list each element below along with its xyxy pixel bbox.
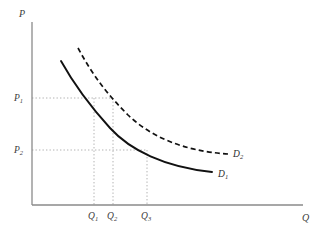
axes (32, 22, 303, 205)
demand-curve-d1 (61, 61, 212, 172)
curve-labels: D2 D1 (217, 149, 244, 180)
quantity-tick-q3: Q3 (141, 211, 152, 222)
quantity-tick-labels: Q1 Q2 Q3 (88, 211, 152, 222)
curve-label-d2: D2 (232, 149, 244, 160)
curve-label-d1: D1 (217, 169, 228, 180)
y-axis-label: P (18, 8, 25, 19)
demand-curve-d2 (78, 48, 228, 154)
quantity-tick-q2: Q2 (107, 211, 118, 222)
demand-curve-figure: P Q P1 P2 Q1 Q2 Q3 D2 D1 (0, 0, 323, 237)
price-tick-p1: P1 (13, 93, 23, 104)
quantity-tick-q1: Q1 (88, 211, 98, 222)
price-guidelines (32, 98, 147, 150)
figure-canvas: P Q P1 P2 Q1 Q2 Q3 D2 D1 (0, 0, 323, 237)
price-tick-labels: P1 P2 (13, 93, 24, 156)
price-tick-p2: P2 (13, 145, 24, 156)
x-axis-label: Q (302, 212, 310, 223)
